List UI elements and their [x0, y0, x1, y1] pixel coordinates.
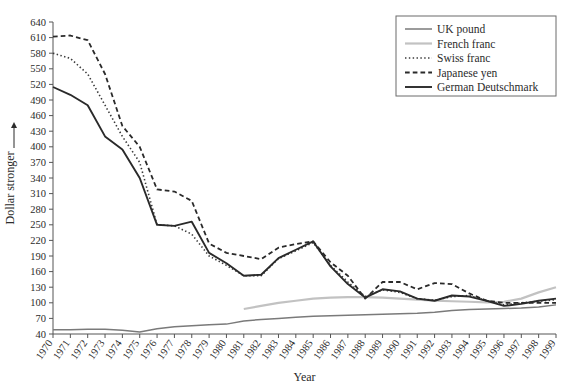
y-tick-label: 190 [30, 251, 46, 262]
x-tick-label: 1991 [398, 338, 419, 362]
x-axis: 1970197119721973197419751976197719781979… [34, 334, 558, 361]
y-tick-label: 430 [30, 126, 46, 137]
y-tick-label: 580 [30, 48, 46, 59]
x-tick-label: 1974 [103, 337, 124, 361]
x-tick-label: 1997 [502, 338, 523, 362]
x-tick-label: 1983 [259, 338, 280, 362]
x-tick-label: 1992 [415, 338, 436, 362]
x-tick-label: 1990 [380, 338, 401, 362]
x-tick-label: 1988 [346, 338, 367, 362]
x-tick-label: 1981 [224, 338, 245, 362]
y-tick-label: 280 [30, 204, 46, 215]
chart-legend: UK poundFrench francSwiss francJapanese … [396, 16, 556, 96]
x-tick-label: 1970 [34, 338, 55, 362]
series-line-uk-pound [53, 305, 556, 332]
legend-label-japanese-yen: Japanese yen [437, 67, 498, 80]
x-tick-label: 1982 [242, 338, 263, 362]
y-tick-label: 640 [30, 17, 46, 28]
x-tick-label: 1998 [519, 338, 540, 362]
x-tick-label: 1989 [363, 338, 384, 362]
x-axis-title: Year [293, 370, 315, 384]
x-tick-label: 1972 [68, 338, 89, 362]
x-tick-label: 1975 [120, 338, 141, 362]
y-tick-label: 400 [30, 141, 46, 152]
x-tick-label: 1979 [190, 338, 211, 362]
x-tick-label: 1986 [311, 338, 332, 362]
y-tick-label: 250 [30, 219, 46, 230]
x-tick-label: 1978 [172, 338, 193, 362]
legend-label-swiss-franc: Swiss franc [437, 52, 490, 64]
x-tick-label: 1976 [138, 338, 159, 362]
y-axis-arrow-head [11, 122, 17, 128]
y-tick-label: 460 [30, 110, 46, 121]
y-tick-label: 310 [30, 188, 46, 199]
x-tick-label: 1984 [276, 337, 297, 361]
legend-label-german-deutschmark: German Deutschmark [437, 81, 538, 93]
x-tick-label: 1996 [485, 338, 506, 362]
y-tick-label: 70 [36, 313, 47, 324]
x-tick-label: 1993 [433, 338, 454, 362]
y-tick-label: 550 [30, 63, 46, 74]
y-tick-label: 490 [30, 95, 46, 106]
series-line-german-deutschmark [53, 87, 556, 306]
x-tick-label: 1980 [207, 338, 228, 362]
x-tick-label: 1977 [155, 338, 176, 362]
y-tick-label: 220 [30, 235, 46, 246]
y-tick-label: 160 [30, 266, 46, 277]
x-tick-label: 1999 [537, 338, 558, 362]
legend-label-french-franc: French franc [437, 38, 495, 50]
y-tick-label: 130 [30, 282, 46, 293]
x-tick-label: 1994 [450, 337, 471, 361]
x-tick-label: 1985 [294, 338, 315, 362]
y-tick-label: 100 [30, 297, 46, 308]
x-tick-label: 1973 [86, 338, 107, 362]
x-tick-label: 1987 [328, 338, 349, 362]
x-tick-label: 1971 [51, 338, 72, 362]
y-tick-label: 610 [30, 32, 46, 43]
x-tick-label: 1995 [467, 338, 488, 362]
y-tick-label: 340 [30, 173, 46, 184]
y-axis-title: Dollar stronger [3, 152, 17, 225]
currency-line-chart: 4070100130160190220250280310340370400430… [0, 0, 581, 386]
y-axis: 4070100130160190220250280310340370400430… [30, 17, 53, 340]
legend-label-uk-pound: UK pound [437, 23, 485, 36]
chart-container: 4070100130160190220250280310340370400430… [0, 0, 581, 386]
y-tick-label: 520 [30, 79, 46, 90]
y-tick-label: 370 [30, 157, 46, 168]
